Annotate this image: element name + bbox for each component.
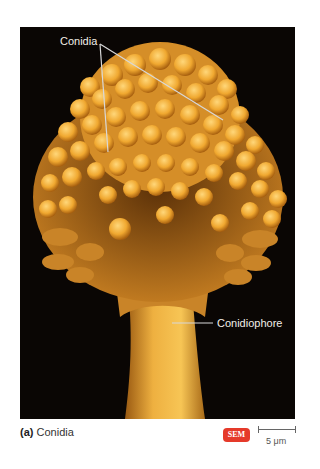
scale-bar — [258, 429, 296, 436]
sem-micrograph — [20, 27, 295, 419]
conidiophore-label: Conidiophore — [217, 317, 282, 329]
caption-part: (a) — [20, 426, 33, 438]
scale-bar-label: 5 μm — [266, 436, 286, 446]
sem-badge: SEM — [223, 428, 250, 442]
micrograph-image: Conidia Conidiophore — [20, 27, 295, 419]
caption-text: Conidia — [37, 426, 74, 438]
figure-caption: (a) Conidia — [20, 426, 74, 438]
conidia-label: Conidia — [60, 35, 97, 47]
